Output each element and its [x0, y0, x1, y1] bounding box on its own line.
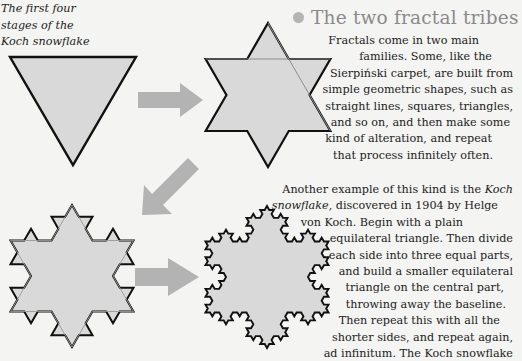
- emphasis-snowflake: snowflake: [272, 199, 329, 212]
- text-line: Then repeat this with all the: [251, 313, 513, 329]
- text-line: straight lines, squares, triangles,: [283, 99, 513, 115]
- text-line: ad infinitum. The Koch snowflake: [251, 346, 513, 361]
- caption-line: stages of the: [1, 18, 131, 35]
- text-line: and build a smaller equilateral: [251, 264, 513, 280]
- arrow-down-left-icon: [142, 158, 199, 215]
- koch-stage-3: [11, 205, 134, 347]
- caption-line: Koch snowflake: [1, 34, 131, 51]
- text-line: equilateral triangle. Then divide: [251, 231, 513, 247]
- text-line: von Koch. Begin with a plain: [251, 215, 513, 231]
- text-line: throwing away the baseline.: [251, 297, 513, 313]
- text-line: and so on, and then make some: [283, 115, 513, 131]
- section-heading: The two fractal tribes: [293, 7, 522, 29]
- koch-stage-1: [10, 57, 136, 165]
- text-line: simple geometric shapes, such as: [283, 82, 513, 98]
- text-line: snowflake, discovered in 1904 by Helge: [251, 198, 513, 214]
- arrow-right-icon: [138, 83, 203, 117]
- text-line: each side into three equal parts,: [251, 248, 513, 264]
- text-line: kind of alteration, and repeat: [283, 131, 513, 147]
- text-line: shorter sides, and repeat again,: [251, 330, 513, 346]
- text-line: Fractals come in two main: [283, 33, 513, 49]
- paragraph-koch-snowflake: Another example of this kind is the Koch…: [251, 182, 513, 361]
- circle-bullet-icon: [293, 12, 304, 23]
- text-line: Another example of this kind is the Koch: [251, 182, 513, 198]
- heading-title: The two fractal tribes: [311, 7, 519, 28]
- text-line: triangle on the central part,: [251, 280, 513, 296]
- figure-caption: The first four stages of the Koch snowfl…: [1, 1, 131, 51]
- text-line: families. Some, like the: [283, 49, 513, 65]
- arrow-right-icon: [135, 258, 199, 296]
- caption-line: The first four: [1, 1, 131, 18]
- paragraph-fractal-families: Fractals come in two main families. Some…: [283, 33, 513, 164]
- text-line: Sierpiński carpet, are built from: [283, 66, 513, 82]
- text-segment: Another example of this kind is the: [282, 183, 484, 196]
- text-line: that process infinitely often.: [283, 148, 513, 164]
- text-segment: , discovered in 1904 by Helge: [329, 199, 498, 212]
- emphasis-koch: Koch: [485, 183, 513, 196]
